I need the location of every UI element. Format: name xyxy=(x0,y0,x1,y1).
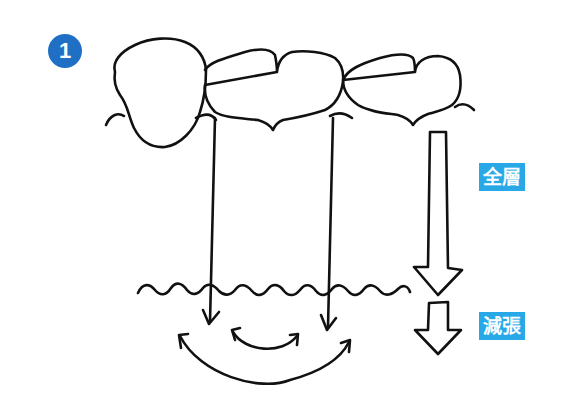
wavy-mucosa-line xyxy=(138,284,410,295)
tooth-middle xyxy=(205,49,343,130)
label-full-thickness: 全層 xyxy=(479,163,525,191)
step-number-badge: 1 xyxy=(48,34,82,68)
gingiva-left xyxy=(106,114,124,125)
gingiva-right xyxy=(455,104,474,110)
gingiva-mid xyxy=(196,115,216,120)
tooth-left xyxy=(114,38,206,147)
tooth-right xyxy=(343,55,461,125)
inner-curved-arrow xyxy=(233,332,297,349)
incision-line-right xyxy=(328,118,333,327)
outer-curved-arrow xyxy=(180,336,349,384)
label-reduced-tension: 減張 xyxy=(479,312,525,340)
incision-line-left xyxy=(210,118,215,322)
large-down-arrow xyxy=(414,132,462,295)
diagram: 1 全層 減張 xyxy=(0,0,570,398)
small-down-arrow xyxy=(415,302,461,354)
